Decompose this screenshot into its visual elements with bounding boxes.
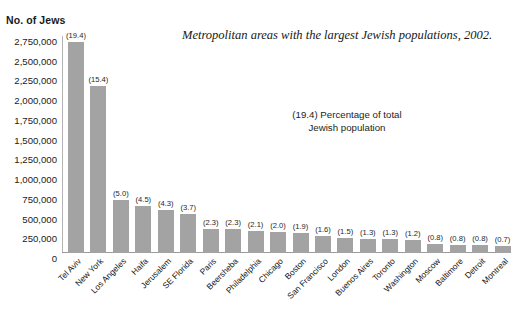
y-tick-label: 500,000 [0,213,57,224]
bar-chart: No. of Jews Metropolitan areas with the … [0,0,523,331]
x-tick-group: Los Angeles [110,253,132,331]
x-tick-group: Paris [200,253,222,331]
y-tick-label: 2,250,000 [0,75,57,86]
y-axis-tick-labels: 2,750,0002,500,0002,250,0002,000,0001,75… [0,36,57,253]
bar-group: (4.5) [132,36,154,253]
x-tick-group: Detroit [469,253,491,331]
x-tick-group: Haifa [132,253,154,331]
bar-group: (0.8) [424,36,446,253]
x-tick-group: SE Florida [177,253,199,331]
x-tick-group: Moscow [424,253,446,331]
x-tick-group: Tel Aviv [65,253,87,331]
bar-group: (19.4) [65,36,87,253]
y-tick-label: 1,750,000 [0,114,57,125]
bar [90,86,106,253]
x-tick-group: Washington [402,253,424,331]
x-tick-group: San Francisco [312,253,334,331]
y-tick-label: 2,000,000 [0,95,57,106]
bar-group: (1.6) [312,36,334,253]
bar-group: (15.4) [87,36,109,253]
bar-group: (1.2) [402,36,424,253]
x-tick-group: Philadelphia [245,253,267,331]
x-tick-group: Montreal [492,253,514,331]
y-axis-title: No. of Jews [6,14,65,26]
bar-group: (2.0) [267,36,289,253]
bar-percentage-label: (0.7) [486,235,520,244]
y-tick-label: 2,500,000 [0,55,57,66]
x-tick-group: Baltimore [447,253,469,331]
bar-group: (1.3) [379,36,401,253]
y-tick-label: 1,500,000 [0,134,57,145]
y-tick-label: 750,000 [0,193,57,204]
bar-group: (0.8) [469,36,491,253]
x-axis-tick-labels: Tel AvivNew YorkLos AngelesHaifaJerusale… [62,253,511,331]
bar-group: (0.7) [492,36,514,253]
plot-area: (19.4)(15.4)(5.0)(4.5)(4.3)(3.7)(2.3)(2.… [62,36,511,253]
y-tick-label: 2,750,000 [0,36,57,47]
y-tick-label: 1,250,000 [0,154,57,165]
x-tick-group: Jerusalem [155,253,177,331]
bar-group: (1.9) [290,36,312,253]
y-tick-label: 0 [0,253,57,264]
bar-group: (0.8) [447,36,469,253]
y-tick-label: 250,000 [0,233,57,244]
y-tick-label: 1,000,000 [0,174,57,185]
bar-group: (5.0) [110,36,132,253]
bar-group: (4.3) [155,36,177,253]
x-tick-group: Buenos Aires [357,253,379,331]
bar-group: (1.5) [334,36,356,253]
y-axis-line [62,36,63,253]
